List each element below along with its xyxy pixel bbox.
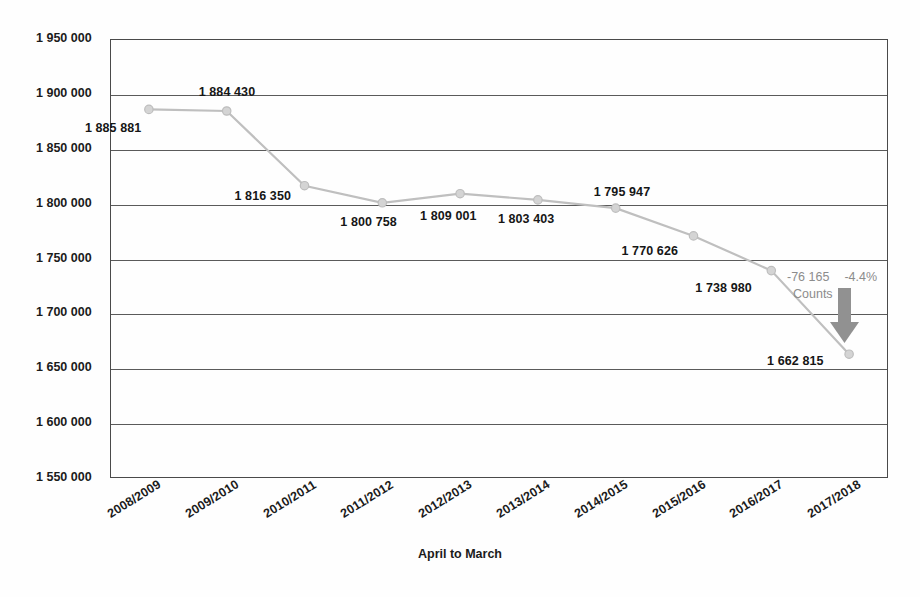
data-point-label: 1 885 881	[85, 121, 142, 135]
x-axis-tick-label: 2015/2016	[650, 477, 708, 521]
x-axis-title: April to March	[0, 547, 920, 561]
y-axis-tick-label: 1 700 000	[36, 305, 92, 319]
x-axis-tick-label: 2012/2013	[416, 477, 474, 521]
y-axis-tick-label: 1 950 000	[36, 31, 92, 45]
data-point-label: 1 770 626	[622, 244, 679, 258]
x-axis-tick-label: 2009/2010	[183, 477, 241, 521]
annotation-delta: -76 165 -4.4%	[787, 270, 877, 284]
x-axis-tick-label: 2014/2015	[572, 477, 630, 521]
data-point-label: 1 816 350	[235, 189, 292, 203]
x-axis-tick-label: 2016/2017	[727, 477, 785, 521]
data-point-label: 1 800 758	[340, 215, 397, 229]
gridline	[111, 314, 887, 315]
x-axis-tick-label: 2008/2009	[105, 477, 163, 521]
annotation-delta-value: -76 165	[787, 270, 829, 284]
y-axis-tick-label: 1 550 000	[36, 470, 92, 484]
data-point-label: 1 803 403	[498, 212, 555, 226]
y-axis-tick-label: 1 750 000	[36, 251, 92, 265]
annotation-unit: Counts	[793, 287, 833, 301]
x-axis-tick-label: 2017/2018	[805, 477, 863, 521]
data-point-label: 1 662 815	[767, 354, 824, 368]
x-axis-tick-label: 2013/2014	[494, 477, 552, 521]
y-axis-tick-label: 1 800 000	[36, 196, 92, 210]
y-axis-tick-label: 1 650 000	[36, 360, 92, 374]
data-point-label: 1 884 430	[199, 85, 256, 99]
y-axis-tick-label: 1 850 000	[36, 141, 92, 155]
gridline	[111, 424, 887, 425]
data-point-label: 1 738 980	[695, 281, 752, 295]
annotation-delta-percent: -4.4%	[844, 270, 877, 284]
plot-area	[110, 39, 888, 478]
gridline	[111, 205, 887, 206]
gridline	[111, 150, 887, 151]
line-chart: 1 950 0001 900 0001 850 0001 800 0001 75…	[0, 0, 920, 597]
gridline	[111, 369, 887, 370]
gridline	[111, 260, 887, 261]
y-axis-tick-label: 1 900 000	[36, 86, 92, 100]
y-axis-tick-label: 1 600 000	[36, 415, 92, 429]
x-axis-tick-label: 2010/2011	[261, 478, 319, 521]
x-axis-tick-label: 2011/2012	[338, 478, 396, 521]
data-point-label: 1 809 001	[420, 209, 477, 223]
data-point-label: 1 795 947	[594, 185, 651, 199]
